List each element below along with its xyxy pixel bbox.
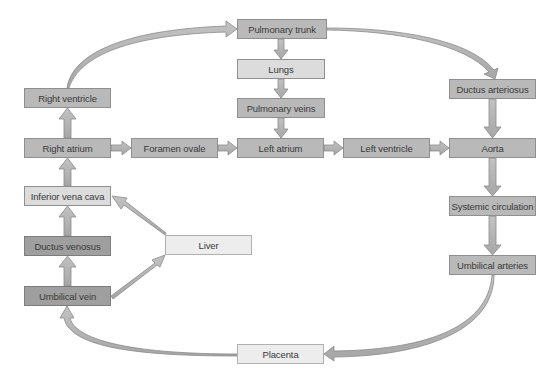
arrow-liver-to-ivc bbox=[112, 196, 166, 235]
node-ductus-arteriosus: Ductus arteriosus bbox=[449, 79, 536, 99]
node-pulmonary-veins: Pulmonary veins bbox=[237, 98, 325, 118]
arrow-umbilical-vein-to-liver bbox=[111, 255, 165, 299]
node-inferior-vena-cava: Inferior vena cava bbox=[24, 186, 111, 206]
arrow-right-atrium-to-foramen-ovale bbox=[111, 141, 131, 155]
arrow-pulmonary-trunk-to-ductus-arteriosus bbox=[327, 28, 498, 79]
arrow-aorta-to-systemic-circulation bbox=[484, 158, 501, 196]
arrow-ivc-to-right-atrium bbox=[59, 158, 76, 186]
node-liver: Liver bbox=[165, 235, 252, 255]
node-foramen-ovale: Foramen ovale bbox=[131, 138, 218, 158]
node-right-atrium: Right atrium bbox=[24, 138, 111, 158]
node-left-atrium: Left atrium bbox=[237, 138, 324, 158]
arrow-lungs-to-pulmonary-veins bbox=[274, 79, 288, 98]
node-left-ventricle: Left ventricle bbox=[343, 138, 430, 158]
node-placenta: Placenta bbox=[237, 344, 324, 364]
arrow-umbilical-vein-to-ductus-venosus bbox=[59, 256, 76, 286]
arrow-umbilical-arteries-to-placenta bbox=[324, 275, 494, 361]
fetal-circulation-diagram: Pulmonary trunk Lungs Pulmonary veins Ri… bbox=[0, 0, 560, 381]
arrow-pulmonary-trunk-to-lungs bbox=[274, 39, 288, 59]
node-ductus-venosus: Ductus venosus bbox=[24, 236, 111, 256]
arrow-right-atrium-to-right-ventricle bbox=[59, 108, 76, 138]
arrow-ductus-venosus-to-ivc bbox=[59, 206, 76, 236]
arrow-foramen-ovale-to-left-atrium bbox=[218, 141, 237, 155]
node-umbilical-vein: Umbilical vein bbox=[24, 286, 111, 306]
arrow-placenta-to-umbilical-vein bbox=[60, 306, 237, 356]
arrow-left-ventricle-to-aorta bbox=[430, 141, 449, 155]
arrow-systemic-to-umbilical-arteries bbox=[484, 216, 501, 255]
node-right-ventricle: Right ventricle bbox=[24, 88, 111, 108]
node-aorta: Aorta bbox=[449, 138, 536, 158]
node-systemic-circulation: Systemic circulation bbox=[449, 196, 536, 216]
node-lungs: Lungs bbox=[237, 59, 325, 79]
node-pulmonary-trunk: Pulmonary trunk bbox=[237, 19, 327, 39]
arrow-rv-to-pulmonary-trunk bbox=[67, 21, 237, 88]
arrow-ductus-arteriosus-to-aorta bbox=[484, 99, 501, 138]
node-umbilical-arteries: Umbilical arteries bbox=[449, 255, 536, 275]
arrow-pulmonary-veins-to-left-atrium bbox=[274, 118, 288, 138]
arrow-left-atrium-to-left-ventricle bbox=[324, 141, 343, 155]
